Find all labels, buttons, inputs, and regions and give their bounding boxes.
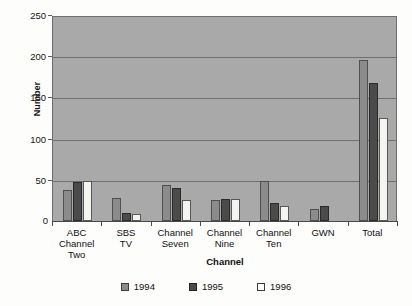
x-axis-category-label: Channel Nine [200, 227, 249, 249]
bar-1995[interactable] [73, 182, 82, 221]
bar-1996[interactable] [231, 199, 240, 221]
legend-item-1994[interactable]: 1994 [121, 281, 155, 292]
plot-area [52, 16, 397, 222]
x-axis-tick-mark [397, 222, 398, 226]
legend-swatch-1996-icon [257, 283, 265, 291]
x-axis-title: Channel [52, 256, 398, 267]
chart-legend: 1994 1995 1996 [0, 281, 412, 292]
x-axis-tick-mark [298, 222, 299, 226]
y-axis-tick-label: 150 [2, 93, 46, 103]
bar-1994[interactable] [359, 60, 368, 221]
bar-1996[interactable] [379, 118, 388, 221]
legend-item-1996[interactable]: 1996 [257, 281, 291, 292]
bar-1996[interactable] [83, 181, 92, 221]
x-axis-tick-mark [52, 222, 53, 226]
bar-1994[interactable] [211, 200, 220, 221]
bar-group [299, 17, 348, 221]
legend-label-1994: 1994 [134, 281, 155, 292]
legend-label-1996: 1996 [270, 281, 291, 292]
x-axis-tick-mark [249, 222, 250, 226]
bar-1995[interactable] [270, 203, 279, 221]
x-axis-category-label: Total [348, 227, 397, 238]
x-axis-category-label: GWN [298, 227, 347, 238]
x-axis-line [52, 221, 398, 222]
bar-group [152, 17, 201, 221]
legend-swatch-1994-icon [121, 283, 129, 291]
bar-1995[interactable] [172, 188, 181, 221]
x-axis-tick-mark [151, 222, 152, 226]
bar-1995[interactable] [122, 213, 131, 221]
y-axis-zero-label: 0 [34, 215, 48, 226]
bar-1994[interactable] [310, 209, 319, 221]
bar-group [201, 17, 250, 221]
bar-1994[interactable] [112, 198, 121, 221]
bar-1995[interactable] [320, 206, 329, 221]
bar-group [53, 17, 102, 221]
y-axis-tick-label: 250 [2, 11, 46, 21]
x-axis-category-label: Channel Seven [151, 227, 200, 249]
bar-1994[interactable] [63, 190, 72, 221]
legend-swatch-1995-icon [189, 283, 197, 291]
bar-chart: Number 50100150200250 0 ABC Channel TwoS… [0, 0, 412, 306]
x-axis-category-label: SBS TV [101, 227, 150, 249]
x-axis-category-label: Channel Ten [249, 227, 298, 249]
bar-1996[interactable] [280, 206, 289, 221]
bar-1994[interactable] [260, 181, 269, 221]
bar-1994[interactable] [162, 185, 171, 221]
bar-1995[interactable] [221, 199, 230, 221]
legend-item-1995[interactable]: 1995 [189, 281, 223, 292]
bar-group [250, 17, 299, 221]
x-axis-tick-mark [348, 222, 349, 226]
x-axis-tick-mark [101, 222, 102, 226]
y-axis-tick-label: 100 [2, 135, 46, 145]
bar-1995[interactable] [369, 83, 378, 221]
y-axis-tick-label: 200 [2, 52, 46, 62]
bar-1996[interactable] [182, 200, 191, 221]
legend-label-1995: 1995 [202, 281, 223, 292]
x-axis-tick-mark [200, 222, 201, 226]
bar-1996[interactable] [132, 214, 141, 221]
bar-group [349, 17, 398, 221]
bar-group [102, 17, 151, 221]
y-axis-tick-label: 50 [2, 176, 46, 186]
